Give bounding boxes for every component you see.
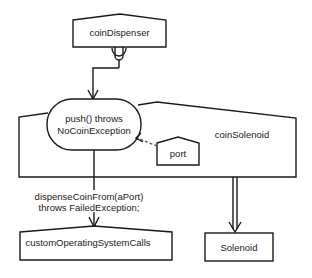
dispense-call-label-line2: throws FailedException; (39, 202, 140, 213)
coin-dispenser-label: coinDispenser (89, 27, 149, 38)
coin-solenoid-label: coinSolenoid (215, 129, 269, 140)
port-dependency-line (137, 138, 157, 146)
diagram-canvas: coinDispenser push() throws NoCoinExcept… (0, 0, 312, 278)
dispenser-to-push-connector (93, 68, 119, 98)
arrowhead-double-icon (229, 222, 241, 232)
solenoid-label: Solenoid (221, 242, 258, 253)
interface-socket-icon (112, 48, 126, 56)
port-label: port (170, 148, 187, 159)
dispense-call-label-line1: dispenseCoinFrom(aPort) (35, 191, 144, 202)
interface-ball-icon (115, 47, 123, 60)
custom-os-calls-label: customOperatingSystemCalls (25, 237, 150, 248)
push-operation-label-line1: push() throws (65, 113, 123, 124)
push-operation-label-line2: NoCoinException (57, 125, 130, 136)
